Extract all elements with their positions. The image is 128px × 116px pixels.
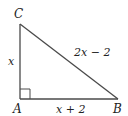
side-label-bc: 2x − 2 xyxy=(73,46,110,59)
side-label-ac: x xyxy=(8,55,15,68)
vertex-label-b: B xyxy=(112,102,122,116)
right-angle-marker xyxy=(20,89,30,99)
vertex-label-a: A xyxy=(12,102,22,116)
side-bc-hypotenuse xyxy=(20,24,118,99)
vertex-label-c: C xyxy=(14,7,23,21)
side-label-ab: x + 2 xyxy=(56,103,85,116)
triangle-diagram: C A B x x + 2 2x − 2 xyxy=(0,0,128,116)
